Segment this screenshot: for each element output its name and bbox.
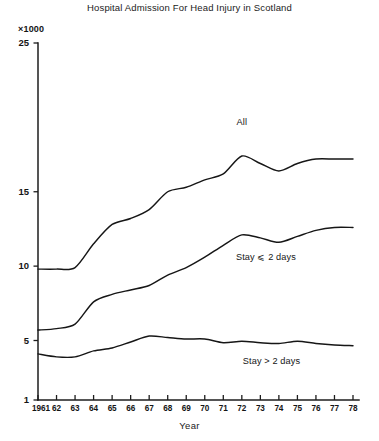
- x-axis-title: Year: [0, 420, 379, 431]
- x-tick-label-1965: 65: [104, 404, 120, 413]
- plot-area: [0, 0, 379, 441]
- x-tick-label-1967: 67: [141, 404, 157, 413]
- x-tick-label-1977: 77: [326, 404, 342, 413]
- y-tick-label-25: 25: [3, 37, 29, 48]
- x-tick-label-1976: 76: [308, 404, 324, 413]
- series-line-2: [38, 227, 353, 330]
- x-tick-label-1974: 74: [271, 404, 287, 413]
- series-line-1: [38, 156, 353, 270]
- x-tick-label-1973: 73: [252, 404, 268, 413]
- series-annotation-2: Stay ⩽ 2 days: [236, 251, 296, 262]
- x-tick-label-1962: 62: [49, 404, 65, 413]
- chart-figure: Hospital Admission For Head Injury in Sc…: [0, 0, 379, 441]
- x-tick-label-1964: 64: [86, 404, 102, 413]
- y-tick-label-15: 15: [3, 186, 29, 197]
- x-tick-label-1966: 66: [123, 404, 139, 413]
- y-tick-label-1: 1: [3, 394, 29, 405]
- x-tick-label-1975: 75: [289, 404, 305, 413]
- x-tick-label-1972: 72: [234, 404, 250, 413]
- chart-axes: [34, 43, 360, 400]
- x-tick-label-1963: 63: [67, 404, 83, 413]
- x-tick-label-1971: 71: [215, 404, 231, 413]
- x-tick-label-1970: 70: [197, 404, 213, 413]
- x-tick-label-1978: 78: [345, 404, 361, 413]
- y-tick-label-10: 10: [3, 260, 29, 271]
- series-line-3: [38, 336, 353, 357]
- y-tick-label-5: 5: [3, 335, 29, 346]
- x-tick-label-1969: 69: [178, 404, 194, 413]
- series-annotation-1: All: [237, 117, 248, 127]
- series-annotation-3: Stay > 2 days: [243, 356, 300, 366]
- x-tick-label-1968: 68: [160, 404, 176, 413]
- chart-series-lines: [38, 156, 353, 357]
